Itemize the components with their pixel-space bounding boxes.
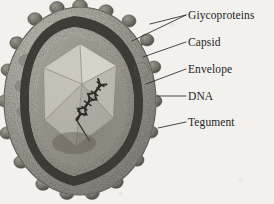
virus-structure-figure: C Giycoproteins Capsid Envelope DNA Tegu… bbox=[0, 0, 274, 204]
label-glycoproteins: Giycoproteins bbox=[188, 9, 254, 21]
label-capsid: Capsid bbox=[188, 36, 221, 48]
label-group: Giycoproteins Capsid Envelope DNA Tegume… bbox=[0, 0, 274, 204]
label-tegument: Tegument bbox=[188, 116, 235, 128]
label-envelope: Envelope bbox=[188, 63, 232, 75]
label-dna: DNA bbox=[188, 90, 213, 102]
